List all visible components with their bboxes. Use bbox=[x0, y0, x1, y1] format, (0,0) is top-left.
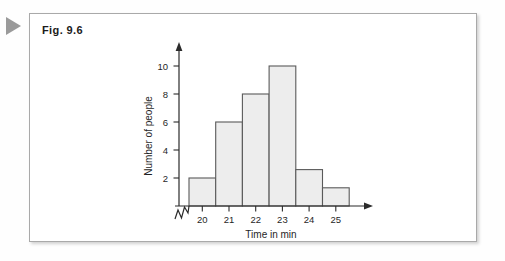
triangle-right-icon bbox=[6, 17, 21, 35]
bars-group bbox=[189, 66, 349, 206]
y-tick-label-8: 8 bbox=[163, 89, 168, 100]
x-tick-label-22: 22 bbox=[250, 214, 261, 225]
x-ticks-group bbox=[202, 206, 335, 212]
y-tick-label-4: 4 bbox=[163, 145, 168, 156]
x-axis-title: Time in min bbox=[245, 229, 296, 240]
x-tick-label-25: 25 bbox=[331, 214, 342, 225]
y-axis-title: Number of people bbox=[143, 96, 154, 176]
bar-25 bbox=[323, 188, 350, 206]
bar-22 bbox=[242, 94, 269, 206]
bar-21 bbox=[216, 122, 243, 206]
bar-23 bbox=[269, 66, 296, 206]
axis-break-icon bbox=[175, 206, 189, 219]
chart-svg: 2 4 6 8 10 20 21 22 23 24 bbox=[30, 14, 478, 243]
y-tick-label-10: 10 bbox=[157, 61, 168, 72]
x-tick-label-23: 23 bbox=[277, 214, 288, 225]
bar-24 bbox=[296, 170, 323, 206]
y-tick-label-2: 2 bbox=[163, 173, 168, 184]
x-tick-label-24: 24 bbox=[304, 214, 315, 225]
y-axis-arrow-icon bbox=[176, 42, 183, 51]
histogram-chart: 2 4 6 8 10 20 21 22 23 24 bbox=[30, 14, 478, 243]
figure-frame: Fig. 9.6 2 bbox=[29, 13, 477, 242]
bar-20 bbox=[189, 178, 216, 206]
x-axis-arrow-icon bbox=[364, 203, 373, 210]
y-tick-label-6: 6 bbox=[163, 117, 168, 128]
x-tick-label-21: 21 bbox=[224, 214, 235, 225]
x-tick-label-20: 20 bbox=[197, 214, 208, 225]
y-ticks-group bbox=[174, 66, 180, 178]
